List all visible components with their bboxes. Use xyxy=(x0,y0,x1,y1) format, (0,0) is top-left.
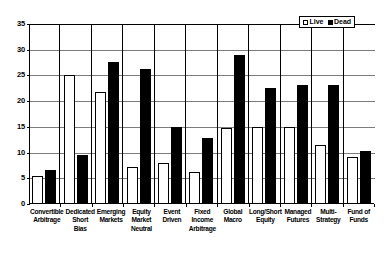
y-tick-label-25: 25 xyxy=(0,71,25,79)
bar-chart: ConvertibleArbitrageDedicatedShort BiasE… xyxy=(0,0,386,261)
bar-live xyxy=(158,163,169,204)
bar-live xyxy=(95,92,106,204)
bar-group xyxy=(344,24,374,204)
x-axis-label: DedicatedShort Bias xyxy=(65,208,96,233)
legend-label-dead: Dead xyxy=(334,18,351,26)
y-tick-mark-0 xyxy=(27,204,30,205)
x-tick-mark xyxy=(343,204,344,207)
bar-live xyxy=(189,172,200,204)
x-axis-label: Long/ShortEquity xyxy=(248,208,283,233)
bar-group xyxy=(218,24,249,204)
hollow-square-swatch-icon xyxy=(303,20,308,25)
x-axis-label: EventDriven xyxy=(157,208,187,233)
x-axis-label: Fund ofFunds xyxy=(344,208,374,233)
x-tick-mark xyxy=(217,204,218,207)
x-tick-mark xyxy=(186,204,187,207)
chart-legend: Live Dead xyxy=(299,16,355,28)
bar-group xyxy=(123,24,154,204)
bar-live xyxy=(64,75,75,204)
bar-dead xyxy=(202,138,213,204)
y-tick-label-0: 0 xyxy=(0,200,25,208)
bar-dead xyxy=(108,62,119,204)
x-axis-labels: ConvertibleArbitrageDedicatedShort BiasE… xyxy=(29,208,374,233)
x-tick-mark xyxy=(154,204,155,207)
bar-groups xyxy=(29,24,374,204)
x-axis-label: EquityMarketNeutral xyxy=(126,208,156,233)
x-axis-label: ManagedFutures xyxy=(283,208,313,233)
y-tick-label-30: 30 xyxy=(0,46,25,54)
bar-dead xyxy=(171,127,182,204)
bar-dead xyxy=(328,85,339,204)
bar-group xyxy=(92,24,123,204)
y-tick-label-5: 5 xyxy=(0,174,25,182)
bar-group xyxy=(60,24,91,204)
bar-live xyxy=(221,128,232,204)
x-tick-mark xyxy=(123,204,124,207)
x-axis-label: FixedIncomeArbitrage xyxy=(187,208,217,233)
bar-dead xyxy=(140,69,151,204)
bar-dead xyxy=(77,155,88,204)
bar-group xyxy=(29,24,60,204)
bar-dead xyxy=(297,85,308,204)
bar-live xyxy=(32,176,43,204)
bar-dead xyxy=(45,170,56,204)
bar-live xyxy=(347,157,358,204)
x-tick-mark xyxy=(374,204,375,207)
x-axis-label: GlobalMacro xyxy=(218,208,248,233)
y-tick-label-15: 15 xyxy=(0,123,25,131)
legend-label-live: Live xyxy=(310,18,324,26)
x-axis-label: ConvertibleArbitrage xyxy=(29,208,65,233)
bar-live xyxy=(127,167,138,204)
bar-group xyxy=(281,24,312,204)
x-axis-label: EmergingMarkets xyxy=(96,208,126,233)
x-axis-label: Multi-Strategy xyxy=(313,208,343,233)
legend-item-dead: Dead xyxy=(328,18,352,26)
x-tick-mark xyxy=(249,204,250,207)
legend-item-live: Live xyxy=(303,18,324,26)
y-tick-label-10: 10 xyxy=(0,149,25,157)
bar-dead xyxy=(234,55,245,204)
bar-group xyxy=(186,24,217,204)
bar-dead xyxy=(265,88,276,204)
x-tick-mark xyxy=(280,204,281,207)
bar-live xyxy=(252,127,263,204)
x-tick-mark xyxy=(92,204,93,207)
bar-group xyxy=(155,24,186,204)
x-tick-mark xyxy=(311,204,312,207)
bar-live xyxy=(284,127,295,204)
bar-group xyxy=(249,24,280,204)
bar-group xyxy=(312,24,343,204)
y-tick-label-35: 35 xyxy=(0,20,25,28)
bar-dead xyxy=(360,151,371,204)
y-tick-label-20: 20 xyxy=(0,97,25,105)
bar-live xyxy=(315,145,326,204)
x-tick-mark xyxy=(60,204,61,207)
filled-square-swatch-icon xyxy=(328,20,333,25)
